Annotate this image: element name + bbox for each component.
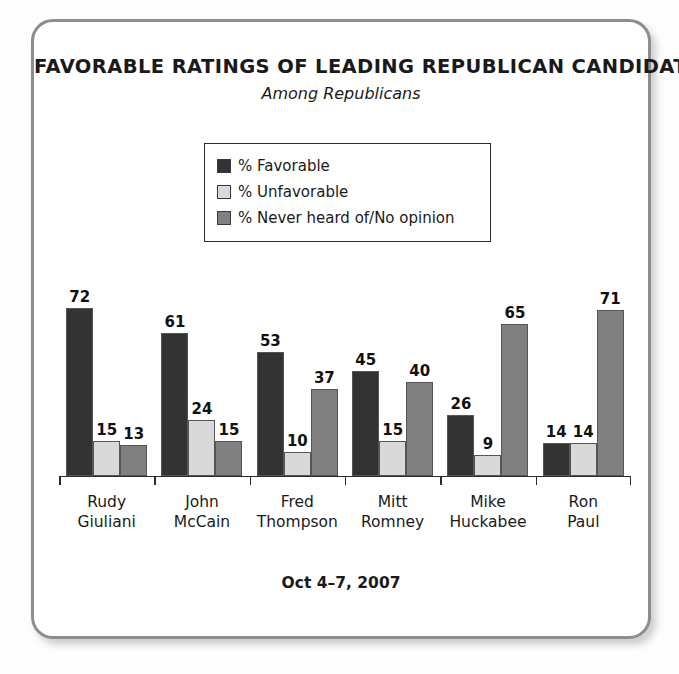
chart-card: FAVORABLE RATINGS OF LEADING REPUBLICAN … — [31, 19, 651, 639]
category-label-line: Paul — [536, 512, 631, 532]
bar-column: 72 — [66, 258, 93, 476]
bar-column: 53 — [257, 258, 284, 476]
bar — [406, 382, 433, 475]
title-block: FAVORABLE RATINGS OF LEADING REPUBLICAN … — [34, 56, 648, 103]
bar-group: 141471 — [536, 258, 631, 476]
category-label: FredThompson — [250, 492, 345, 533]
bar-value-label: 24 — [192, 400, 213, 418]
bar-column: 37 — [311, 258, 338, 476]
category-label-line: John — [154, 492, 249, 512]
bar — [474, 455, 501, 476]
bar-column: 9 — [474, 258, 501, 476]
bar-value-label: 40 — [409, 362, 430, 380]
bar — [257, 352, 284, 475]
bar-value-label: 65 — [505, 304, 526, 322]
bar — [501, 324, 528, 475]
page-title: FAVORABLE RATINGS OF LEADING REPUBLICAN … — [34, 56, 648, 77]
bar-value-label: 14 — [573, 423, 594, 441]
bar-column: 14 — [570, 258, 597, 476]
bar — [66, 308, 93, 476]
bar-column: 45 — [352, 258, 379, 476]
bar — [311, 389, 338, 475]
bar-column: 10 — [284, 258, 311, 476]
axis-tick — [250, 477, 252, 485]
bar-column: 65 — [501, 258, 528, 476]
bar — [352, 371, 379, 476]
chart-legend: % Favorable% Unfavorable% Never heard of… — [204, 143, 491, 242]
bar-value-label: 13 — [123, 425, 144, 443]
axis-tick — [440, 477, 442, 485]
category-label: JohnMcCain — [154, 492, 249, 533]
bar — [215, 441, 242, 476]
category-label-line: Romney — [345, 512, 440, 532]
category-label-line: McCain — [154, 512, 249, 532]
bar — [543, 443, 570, 476]
bar-value-label: 15 — [219, 421, 240, 439]
bar-group: 531037 — [250, 258, 345, 476]
legend-item: % Unfavorable — [217, 179, 478, 205]
bar-groups: 72151361241553103745154026965141471 — [59, 258, 631, 476]
bar-column: 14 — [543, 258, 570, 476]
category-label-line: Fred — [250, 492, 345, 512]
bar-column: 40 — [406, 258, 433, 476]
category-label-line: Thompson — [250, 512, 345, 532]
category-label: MittRomney — [345, 492, 440, 533]
bar-column: 15 — [215, 258, 242, 476]
bar — [597, 310, 624, 475]
category-label-line: Rudy — [59, 492, 154, 512]
bar-group: 721513 — [59, 258, 154, 476]
axis-tick — [536, 477, 538, 485]
bar-column: 26 — [447, 258, 474, 476]
bar-value-label: 37 — [314, 369, 335, 387]
chart-subtitle: Among Republicans — [34, 84, 648, 103]
bar-value-label: 53 — [260, 332, 281, 350]
category-label-line: Mitt — [345, 492, 440, 512]
legend-item-label: % Unfavorable — [238, 183, 348, 201]
category-label-line: Ron — [536, 492, 631, 512]
bar-column: 15 — [93, 258, 120, 476]
bar-value-label: 45 — [355, 351, 376, 369]
axis-tick — [59, 477, 61, 485]
survey-date-note: Oct 4–7, 2007 — [34, 574, 648, 592]
bar — [570, 443, 597, 476]
category-label: RonPaul — [536, 492, 631, 533]
bar-value-label: 9 — [483, 435, 493, 453]
bar-column: 61 — [161, 258, 188, 476]
page-root: FAVORABLE RATINGS OF LEADING REPUBLICAN … — [0, 0, 679, 674]
category-label: MikeHuckabee — [440, 492, 535, 533]
category-label-line: Huckabee — [440, 512, 535, 532]
bar-column: 71 — [597, 258, 624, 476]
legend-swatch-icon — [217, 185, 231, 199]
bar-value-label: 26 — [451, 395, 472, 413]
legend-swatch-icon — [217, 211, 231, 225]
bar-value-label: 61 — [165, 313, 186, 331]
bar-column: 13 — [120, 258, 147, 476]
bar-column: 24 — [188, 258, 215, 476]
legend-item: % Never heard of/No opinion — [217, 205, 478, 231]
bar-value-label: 72 — [69, 288, 90, 306]
category-label-line: Mike — [440, 492, 535, 512]
bar-group: 451540 — [345, 258, 440, 476]
bar-value-label: 15 — [382, 421, 403, 439]
category-labels: RudyGiulianiJohnMcCainFredThompsonMittRo… — [59, 492, 631, 533]
plot-area: 72151361241553103745154026965141471 — [59, 257, 631, 477]
bar — [447, 415, 474, 476]
legend-item: % Favorable — [217, 153, 478, 179]
axis-tick — [345, 477, 347, 485]
bar — [120, 445, 147, 475]
bar-group: 612415 — [154, 258, 249, 476]
bar-value-label: 71 — [600, 290, 621, 308]
category-label-line: Giuliani — [59, 512, 154, 532]
legend-item-label: % Favorable — [238, 157, 330, 175]
bar-value-label: 15 — [96, 421, 117, 439]
bar — [284, 452, 311, 475]
bar-group: 26965 — [440, 258, 535, 476]
legend-swatch-icon — [217, 159, 231, 173]
bar-value-label: 10 — [287, 432, 308, 450]
bar-column: 15 — [379, 258, 406, 476]
bar — [188, 420, 215, 476]
axis-tick — [630, 477, 632, 485]
bar-value-label: 14 — [546, 423, 567, 441]
legend-item-label: % Never heard of/No opinion — [238, 209, 455, 227]
bar — [161, 333, 188, 475]
